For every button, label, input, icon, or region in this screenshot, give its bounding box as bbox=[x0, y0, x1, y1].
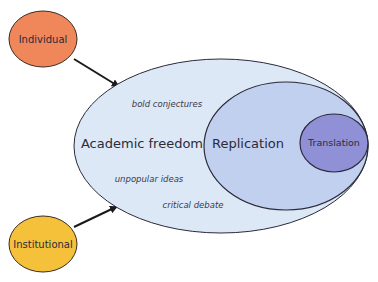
annotation-critical-debate: critical debate bbox=[163, 200, 224, 210]
arrow-individual-to-academic-freedom bbox=[74, 59, 118, 86]
institutional-label: Institutional bbox=[13, 239, 73, 250]
annotation-unpopular-ideas: unpopular ideas bbox=[115, 174, 184, 184]
academic-freedom-label: Academic freedom bbox=[81, 136, 203, 151]
translation-label: Translation bbox=[307, 137, 360, 148]
diagram-canvas: Individual Institutional Academic freedo… bbox=[0, 0, 378, 282]
annotation-bold-conjectures: bold conjectures bbox=[132, 99, 203, 109]
replication-label: Replication bbox=[212, 136, 284, 151]
arrow-institutional-to-academic-freedom bbox=[74, 207, 116, 227]
individual-label: Individual bbox=[19, 34, 68, 45]
